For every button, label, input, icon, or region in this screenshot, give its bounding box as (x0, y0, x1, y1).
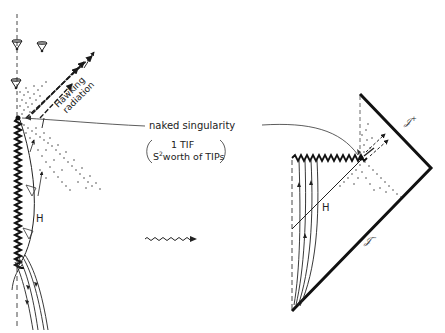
horizon-label-left: H (36, 213, 44, 224)
wavy-arrow-icon (145, 236, 197, 242)
radiation-dots-upper (19, 81, 46, 114)
tif-annotation: 1 TIF S2worth of TIPs (147, 139, 226, 163)
tif-line1: 1 TIF (171, 139, 194, 150)
light-cone-icon (11, 79, 21, 90)
worldlines-right (294, 160, 318, 306)
radiation-dots (23, 124, 100, 190)
right-panel: H 𝒥+ (292, 94, 431, 311)
naked-singularity-label: naked singularity (149, 120, 235, 131)
left-panel: H (11, 14, 101, 330)
scri-plus-label: 𝒥+ (403, 115, 417, 128)
light-cone-icon (37, 42, 47, 53)
scri-minus-label: 𝒥− (363, 234, 377, 247)
hawking-radiation-arrows-right (364, 134, 388, 156)
svg-text:S2worth of TIPs: S2worth of TIPs (153, 150, 224, 162)
horizon-label-right: H (322, 202, 330, 213)
hawking-label: Hawking radiation (52, 73, 96, 117)
singularity-zigzag-horizontal (292, 155, 367, 161)
singularity-zigzag (15, 118, 24, 268)
horizon-line (292, 160, 361, 229)
spacetime-diagram: H (0, 0, 445, 333)
infalling-worldlines (12, 255, 48, 330)
radiation-dots-right (339, 123, 401, 197)
